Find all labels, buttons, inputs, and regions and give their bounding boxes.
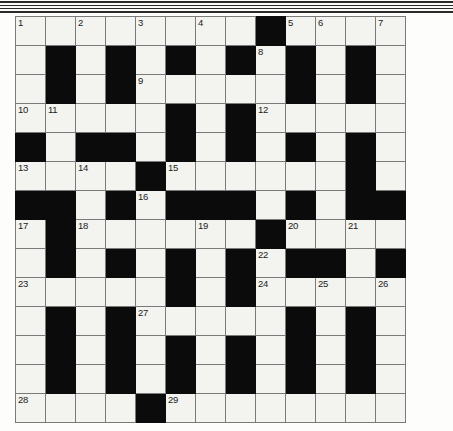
crossword-cell[interactable]: [376, 75, 406, 104]
crossword-cell[interactable]: [316, 75, 346, 104]
crossword-cell[interactable]: [376, 104, 406, 133]
crossword-cell[interactable]: [16, 365, 46, 394]
crossword-cell[interactable]: 21: [346, 220, 376, 249]
crossword-cell[interactable]: [16, 307, 46, 336]
crossword-cell[interactable]: [76, 249, 106, 278]
crossword-cell[interactable]: [316, 104, 346, 133]
crossword-cell[interactable]: [106, 104, 136, 133]
crossword-cell[interactable]: [376, 336, 406, 365]
crossword-cell[interactable]: 23: [16, 278, 46, 307]
crossword-cell[interactable]: [196, 249, 226, 278]
crossword-cell[interactable]: 22: [256, 249, 286, 278]
crossword-cell[interactable]: [376, 220, 406, 249]
crossword-cell[interactable]: [316, 191, 346, 220]
crossword-cell[interactable]: [196, 162, 226, 191]
crossword-cell[interactable]: [226, 307, 256, 336]
crossword-cell[interactable]: [256, 75, 286, 104]
crossword-cell[interactable]: [76, 336, 106, 365]
crossword-cell[interactable]: [316, 307, 346, 336]
crossword-cell[interactable]: [316, 133, 346, 162]
crossword-cell[interactable]: [16, 46, 46, 75]
crossword-cell[interactable]: [376, 307, 406, 336]
crossword-cell[interactable]: 10: [16, 104, 46, 133]
crossword-cell[interactable]: [286, 162, 316, 191]
crossword-cell[interactable]: [196, 365, 226, 394]
crossword-cell[interactable]: [226, 394, 256, 423]
crossword-cell[interactable]: [196, 133, 226, 162]
crossword-cell[interactable]: [256, 162, 286, 191]
crossword-cell[interactable]: [16, 336, 46, 365]
crossword-cell[interactable]: 18: [76, 220, 106, 249]
crossword-cell[interactable]: [316, 336, 346, 365]
crossword-cell[interactable]: [166, 17, 196, 46]
crossword-cell[interactable]: [76, 278, 106, 307]
crossword-cell[interactable]: [256, 133, 286, 162]
crossword-cell[interactable]: [166, 307, 196, 336]
crossword-cell[interactable]: [316, 394, 346, 423]
crossword-cell[interactable]: [256, 365, 286, 394]
crossword-cell[interactable]: [346, 278, 376, 307]
crossword-cell[interactable]: [256, 394, 286, 423]
crossword-cell[interactable]: [256, 336, 286, 365]
crossword-cell[interactable]: [46, 162, 76, 191]
crossword-cell[interactable]: [286, 104, 316, 133]
crossword-cell[interactable]: [106, 220, 136, 249]
crossword-cell[interactable]: 29: [166, 394, 196, 423]
crossword-cell[interactable]: [346, 394, 376, 423]
crossword-cell[interactable]: 20: [286, 220, 316, 249]
crossword-cell[interactable]: [136, 220, 166, 249]
crossword-cell[interactable]: [76, 307, 106, 336]
crossword-cell[interactable]: [76, 75, 106, 104]
crossword-cell[interactable]: 2: [76, 17, 106, 46]
crossword-cell[interactable]: [106, 394, 136, 423]
crossword-cell[interactable]: [226, 75, 256, 104]
crossword-cell[interactable]: [376, 46, 406, 75]
crossword-cell[interactable]: 15: [166, 162, 196, 191]
crossword-cell[interactable]: 4: [196, 17, 226, 46]
crossword-cell[interactable]: [106, 162, 136, 191]
crossword-cell[interactable]: [376, 162, 406, 191]
crossword-cell[interactable]: 3: [136, 17, 166, 46]
crossword-cell[interactable]: [286, 394, 316, 423]
crossword-cell[interactable]: [76, 191, 106, 220]
crossword-cell[interactable]: [76, 394, 106, 423]
crossword-cell[interactable]: [196, 46, 226, 75]
crossword-cell[interactable]: 27: [136, 307, 166, 336]
crossword-cell[interactable]: [46, 394, 76, 423]
crossword-cell[interactable]: [286, 278, 316, 307]
crossword-cell[interactable]: [316, 46, 346, 75]
crossword-cell[interactable]: [46, 133, 76, 162]
crossword-cell[interactable]: [196, 104, 226, 133]
crossword-cell[interactable]: [196, 336, 226, 365]
crossword-cell[interactable]: [76, 104, 106, 133]
crossword-cell[interactable]: [376, 365, 406, 394]
crossword-cell[interactable]: 25: [316, 278, 346, 307]
crossword-cell[interactable]: 24: [256, 278, 286, 307]
crossword-cell[interactable]: [166, 75, 196, 104]
crossword-cell[interactable]: 19: [196, 220, 226, 249]
crossword-cell[interactable]: [316, 365, 346, 394]
crossword-cell[interactable]: [106, 278, 136, 307]
crossword-cell[interactable]: [226, 220, 256, 249]
crossword-cell[interactable]: [226, 162, 256, 191]
crossword-cell[interactable]: [136, 46, 166, 75]
crossword-cell[interactable]: 1: [16, 17, 46, 46]
crossword-cell[interactable]: [376, 133, 406, 162]
crossword-cell[interactable]: [106, 17, 136, 46]
crossword-cell[interactable]: [76, 365, 106, 394]
crossword-cell[interactable]: [136, 133, 166, 162]
crossword-cell[interactable]: [166, 220, 196, 249]
crossword-cell[interactable]: [346, 249, 376, 278]
crossword-cell[interactable]: [196, 278, 226, 307]
crossword-cell[interactable]: [316, 162, 346, 191]
crossword-cell[interactable]: 7: [376, 17, 406, 46]
crossword-cell[interactable]: [256, 191, 286, 220]
crossword-cell[interactable]: 11: [46, 104, 76, 133]
crossword-cell[interactable]: [46, 278, 76, 307]
crossword-cell[interactable]: 16: [136, 191, 166, 220]
crossword-cell[interactable]: 28: [16, 394, 46, 423]
crossword-cell[interactable]: [136, 365, 166, 394]
crossword-grid[interactable]: 1234567891011121314151617181920212223242…: [15, 16, 406, 423]
crossword-cell[interactable]: [136, 249, 166, 278]
crossword-cell[interactable]: [136, 336, 166, 365]
